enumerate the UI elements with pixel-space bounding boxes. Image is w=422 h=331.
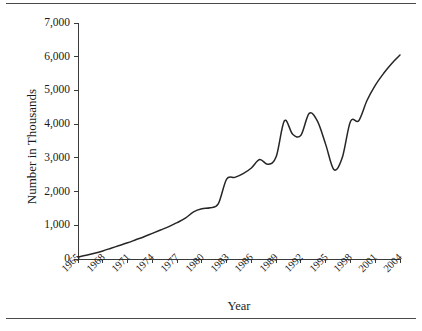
x-axis-title: Year [78, 300, 400, 313]
axis-lines [78, 23, 400, 259]
y-tick-label: 2,000 [14, 186, 70, 198]
y-tick-label: 1,000 [14, 219, 70, 231]
y-axis-title: Number in Thousands [25, 67, 38, 227]
y-tick-label: 4,000 [14, 118, 70, 130]
axis-ticks [74, 23, 400, 263]
chart-figure: 7,0006,0005,0004,0003,0002,0001,0000 196… [0, 0, 422, 331]
y-tick-label: 3,000 [14, 152, 70, 164]
y-tick-label: 5,000 [14, 84, 70, 96]
y-tick-label: 7,000 [14, 17, 70, 29]
data-series-line [78, 55, 400, 257]
y-tick-label: 6,000 [14, 51, 70, 63]
